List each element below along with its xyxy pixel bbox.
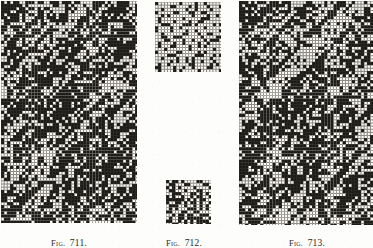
book-page: Fig. 711. Fig. 712. Fig. 713.	[0, 0, 373, 248]
figure-712-upper	[155, 2, 221, 72]
weave-diagram-711	[1, 1, 137, 223]
figure-712-lower	[166, 180, 211, 224]
weave-diagram-713	[239, 1, 373, 225]
caption-prefix-711: Fig.	[51, 238, 65, 248]
figure-713	[239, 1, 373, 225]
weave-diagram-712-lower	[166, 180, 211, 224]
caption-number-712: 712.	[185, 238, 202, 248]
caption-figure-712: Fig. 712.	[160, 232, 208, 248]
caption-number-711: 711.	[70, 238, 87, 248]
caption-prefix-713: Fig.	[289, 238, 303, 248]
figure-711	[1, 1, 137, 223]
weave-diagram-712-upper	[155, 2, 221, 72]
caption-number-713: 713.	[308, 238, 325, 248]
caption-prefix-712: Fig.	[166, 238, 180, 248]
caption-figure-711: Fig. 711.	[45, 232, 93, 248]
caption-figure-713: Fig. 713.	[283, 232, 331, 248]
